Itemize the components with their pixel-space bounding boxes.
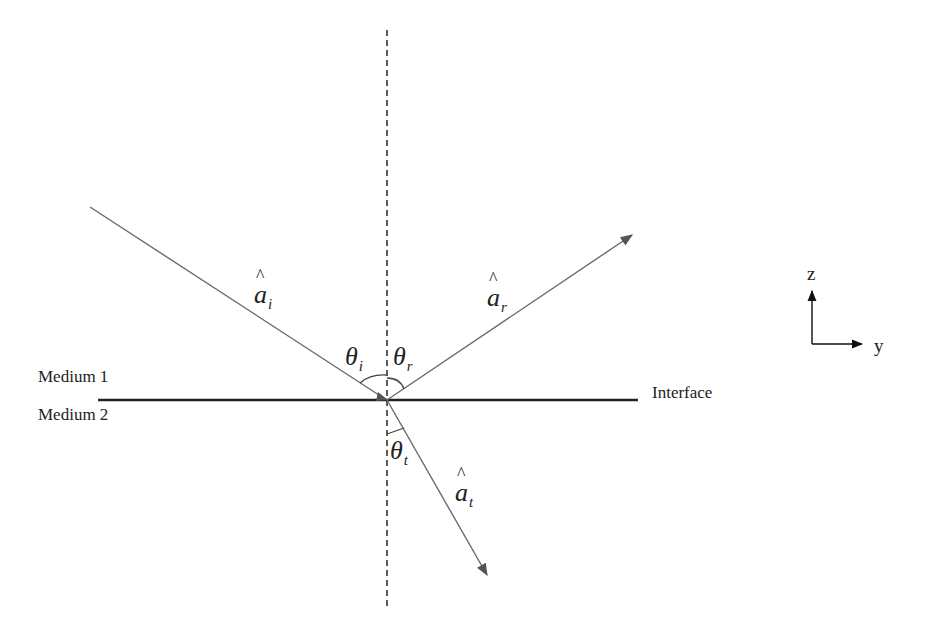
medium-1-label: Medium 1 bbox=[38, 367, 108, 387]
incident-vector-symbol: a bbox=[254, 282, 267, 308]
transmitted-vector-symbol: a bbox=[455, 480, 468, 506]
incident-vector-label: ai bbox=[254, 282, 272, 312]
medium-2-label: Medium 2 bbox=[38, 405, 108, 425]
transmitted-angle-subscript: t bbox=[404, 452, 408, 468]
incident-vector-subscript: i bbox=[268, 296, 272, 312]
reflected-angle-arc bbox=[387, 378, 404, 389]
reflected-vector-subscript: r bbox=[501, 299, 507, 315]
incident-angle-symbol: θ bbox=[345, 342, 358, 371]
transmitted-vector-subscript: t bbox=[469, 494, 473, 510]
reflected-vector-label: ar bbox=[487, 285, 507, 315]
interface-label: Interface bbox=[652, 383, 712, 403]
reflected-ray bbox=[387, 235, 632, 400]
transmitted-angle-arc bbox=[387, 428, 404, 434]
reflected-angle-symbol: θ bbox=[393, 342, 406, 371]
reflected-angle-subscript: r bbox=[407, 358, 413, 374]
transmitted-vector-label: at bbox=[455, 480, 473, 510]
transmitted-angle-label: θt bbox=[390, 438, 408, 468]
incident-angle-label: θi bbox=[345, 344, 363, 374]
incident-angle-arc bbox=[360, 375, 387, 383]
reflected-angle-label: θr bbox=[393, 344, 413, 374]
diagram-canvas bbox=[0, 0, 928, 629]
reflected-vector-symbol: a bbox=[487, 285, 500, 311]
incident-ray bbox=[90, 207, 382, 397]
z-axis-label: z bbox=[807, 263, 815, 285]
incident-angle-subscript: i bbox=[359, 358, 363, 374]
y-axis-label: y bbox=[874, 335, 884, 357]
transmitted-angle-symbol: θ bbox=[390, 436, 403, 465]
